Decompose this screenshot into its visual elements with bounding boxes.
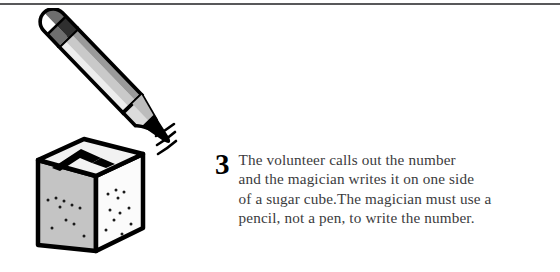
- pencil-barrel-mid: [65, 35, 135, 107]
- sugar-cube: [38, 139, 143, 251]
- pencil: [35, 8, 178, 151]
- pencil-sugar-cube-illustration: [0, 8, 230, 266]
- step-text-line: pencil, not a pen, to write the number.: [239, 208, 551, 227]
- step-text-line: of a sugar cube.The magician must use a: [239, 189, 551, 208]
- step-description: The volunteer calls out the number and t…: [239, 150, 551, 228]
- pencil-tip: [123, 95, 178, 151]
- illustration-page: 3 The volunteer calls out the number and…: [0, 0, 560, 272]
- step-text-line: and the magician writes it on one side: [239, 169, 551, 188]
- step-block: 3 The volunteer calls out the number and…: [215, 150, 550, 228]
- pencil-graphite-point: [144, 116, 174, 146]
- top-divider-rule: [0, 3, 560, 5]
- step-text-line: The volunteer calls out the number: [239, 150, 551, 169]
- step-number: 3: [215, 150, 239, 178]
